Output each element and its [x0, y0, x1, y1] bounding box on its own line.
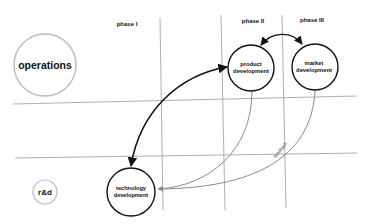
phase-divider-2: [221, 15, 225, 210]
phase-label-2: phase II: [242, 18, 265, 24]
node-technology-development: technology development: [107, 168, 155, 216]
product-label-line1: product: [240, 61, 262, 67]
row-divider-top: [13, 96, 357, 104]
phase-divider-3: [282, 15, 286, 208]
product-market-arrow: [261, 34, 302, 45]
feedback-arrow-from-market: [160, 90, 315, 189]
feedback-label: feedback: [273, 141, 289, 159]
row-label-rd: r&d: [38, 188, 52, 197]
phase-label-3: phase III: [300, 17, 324, 23]
grid-lines: [13, 15, 357, 210]
product-label-line2: development: [233, 68, 269, 74]
market-label-line1: market: [304, 60, 323, 66]
market-label-line2: development: [296, 67, 332, 73]
technology-label-line1: technology: [116, 185, 147, 191]
phase-label-1: phase I: [117, 21, 138, 27]
row-divider-bottom: [15, 153, 357, 158]
feedback-arrow-from-product: [158, 91, 252, 189]
row-label-operations: operations: [18, 59, 72, 71]
tech-product-arrow: [131, 67, 227, 166]
node-product-development: product development: [228, 45, 274, 91]
technology-label-line2: development: [114, 192, 149, 198]
node-market-development: market development: [292, 44, 338, 90]
strategy-diagram: phase I phase II phase III operations r&…: [0, 0, 369, 224]
phase-divider-1: [160, 18, 163, 210]
